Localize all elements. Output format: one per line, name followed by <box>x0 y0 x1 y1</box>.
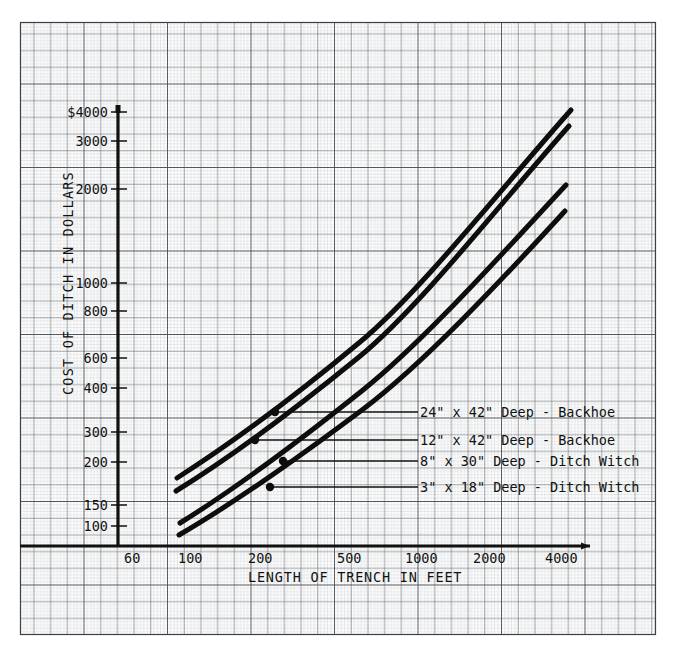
y-tick-label: 150 <box>84 497 108 513</box>
y-tick-label: 3000 <box>75 133 108 149</box>
y-tick-label: 800 <box>84 303 108 319</box>
y-tick-label: 200 <box>84 454 108 470</box>
x-tick-label: 2000 <box>473 550 506 566</box>
graph-paper-grid <box>21 23 656 635</box>
y-axis-title: COST OF DITCH IN DOLLARS <box>60 171 76 395</box>
legend-label-24x42-backhoe: 24" x 42" Deep - Backhoe <box>420 404 615 420</box>
x-tick-label: 60 <box>124 550 140 566</box>
legend-label-3x18-ditch-witch: 3" x 18" Deep - Ditch Witch <box>420 479 639 495</box>
cost-vs-length-log-log-chart: $4000 3000 2000 1000 800 600 400 300 200… <box>0 0 674 653</box>
x-tick-label: 1000 <box>405 550 438 566</box>
x-tick-label: 4000 <box>545 550 578 566</box>
y-tick-label: 300 <box>84 424 108 440</box>
y-tick-label: 1000 <box>75 275 108 291</box>
x-tick-label: 100 <box>178 550 202 566</box>
marker-12x42 <box>251 436 259 444</box>
y-tick-label: 2000 <box>75 181 108 197</box>
chart-root: $4000 3000 2000 1000 800 600 400 300 200… <box>0 0 674 653</box>
x-tick-label: 500 <box>337 550 361 566</box>
x-axis-title: LENGTH OF TRENCH IN FEET <box>248 569 462 585</box>
y-tick-label: $4000 <box>67 104 108 120</box>
y-tick-label: 600 <box>84 350 108 366</box>
x-tick-label: 200 <box>248 550 272 566</box>
marker-24x42 <box>271 408 279 416</box>
marker-3x18 <box>266 483 274 491</box>
y-tick-label: 100 <box>84 518 108 534</box>
legend-label-12x42-backhoe: 12" x 42" Deep - Backhoe <box>420 432 615 448</box>
marker-8x30 <box>279 457 287 465</box>
legend-label-8x30-ditch-witch: 8" x 30" Deep - Ditch Witch <box>420 453 639 469</box>
y-tick-label: 400 <box>84 380 108 396</box>
